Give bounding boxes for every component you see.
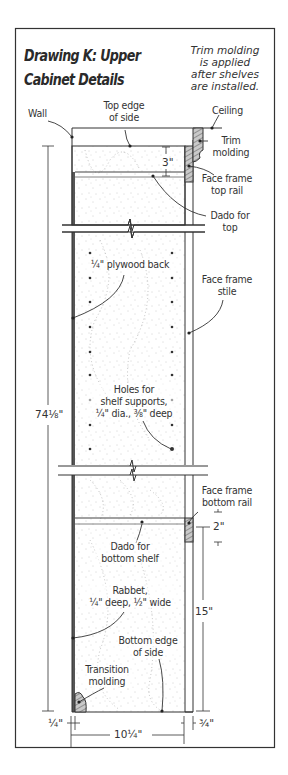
label-holes-for-shelf-supports: Holes for shelf supports, ¼" dia., ⅜" de… (88, 383, 180, 419)
dim-overall-height (42, 146, 54, 711)
dim-label-face-frame-thickness: ¾" (199, 717, 214, 729)
trim-molding-note: Trim molding is applied after shelves ar… (180, 44, 270, 92)
label-transition-molding: Transition molding (79, 663, 135, 687)
dim-label-top-rail: 3" (162, 156, 174, 168)
trim-molding (193, 128, 203, 162)
drawing-title: Drawing K: Upper Cabinet Details (24, 44, 140, 92)
label-dado-for-top: Dado for top (205, 209, 255, 233)
label-ceiling: Ceiling (205, 104, 250, 116)
label-trim-molding: Trim molding (207, 134, 255, 158)
label-face-frame-stile: Face frame stile (196, 273, 258, 297)
label-wall: Wall (28, 107, 47, 119)
label-face-frame-bottom-rail: Face frame bottom rail (196, 484, 258, 508)
label-top-edge-of-side: Top edge of side (93, 99, 155, 123)
dim-label-back-thickness: ¼" (48, 717, 63, 729)
label-face-frame-top-rail: Face frame top rail (196, 172, 258, 196)
dim-label-bottom-rail-from-bottom: 15" (195, 605, 213, 617)
face-frame-top-rail (185, 146, 193, 182)
dim-label-bottom-rail: 2" (213, 520, 225, 532)
label-rabbet: Rabbet, ¼" deep, ½" wide (82, 584, 178, 608)
dim-bottom-rail-from-bottom (196, 527, 210, 711)
dim-label-depth: 10¼" (114, 728, 142, 740)
cabinet-detail-drawing: Drawing K: Upper Cabinet Details Trim mo… (0, 0, 288, 775)
label-bottom-edge-of-side: Bottom edge of side (113, 634, 183, 658)
dim-label-overall-height: 74⅛" (35, 408, 63, 420)
label-dado-for-bottom-shelf: Dado for bottom shelf (95, 540, 165, 564)
label-plywood-back: ¼" plywood back (80, 258, 180, 270)
